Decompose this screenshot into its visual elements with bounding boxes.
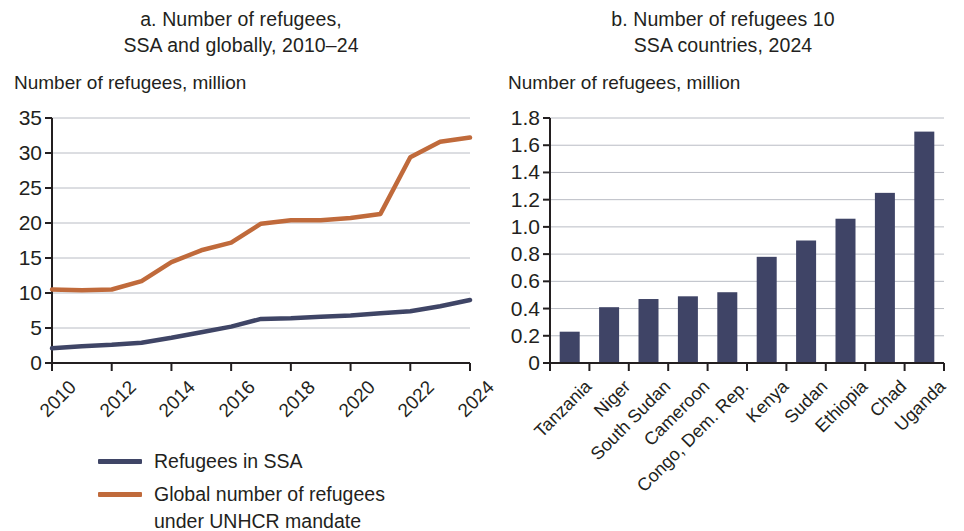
panel-b-y-tick: 0.2	[488, 325, 540, 346]
bar-tanzania	[560, 332, 580, 363]
panel-b-y-tick: 1.0	[488, 216, 540, 237]
legend-item-ssa: Refugees in SSA	[98, 448, 478, 475]
legend-item-global: Global number of refugees under UNHCR ma…	[98, 481, 478, 531]
panel-a-y-tick: 30	[0, 142, 42, 163]
panel-b-title: b. Number of refugees 10 SSA countries, …	[482, 6, 964, 58]
bar-kenya	[757, 257, 777, 363]
panel-b-tickmarks	[543, 118, 550, 363]
panel-b-title-line2: SSA countries, 2024	[482, 32, 964, 58]
legend-label-global-line2: under UNHCR mandate	[154, 508, 385, 531]
panel-a-y-tick: 0	[0, 352, 42, 373]
legend-label-ssa-line1: Refugees in SSA	[154, 450, 303, 472]
panel-b-y-tick: 0	[488, 352, 540, 373]
line-global-refugees	[52, 138, 470, 291]
panel-b-bars	[560, 132, 935, 363]
panel-a-title-line2: SSA and globally, 2010–24	[0, 32, 482, 58]
panel-b-y-tick: 1.6	[488, 134, 540, 155]
panel-b-y-tick: 1.2	[488, 189, 540, 210]
panel-a-y-tick: 20	[0, 212, 42, 233]
legend-label-ssa: Refugees in SSA	[154, 448, 303, 475]
panel-b-plot-area	[550, 118, 944, 363]
panel-a-y-tick: 25	[0, 177, 42, 198]
line-ssa-refugees	[52, 300, 470, 348]
legend-swatch-ssa	[98, 459, 142, 464]
panel-a-y-tick: 10	[0, 282, 42, 303]
panel-b-y-tick: 1.4	[488, 161, 540, 182]
figure-container: a. Number of refugees, SSA and globally,…	[0, 0, 964, 531]
panel-a-tickmarks	[45, 118, 470, 371]
bar-sudan	[796, 241, 816, 364]
bar-cameroon	[678, 296, 698, 363]
panel-b-y-tick: 0.6	[488, 270, 540, 291]
panel-a-y-tick: 5	[0, 317, 42, 338]
panel-b-y-tick: 0.4	[488, 298, 540, 319]
panel-b-y-tick: 0.8	[488, 243, 540, 264]
legend-label-global: Global number of refugees under UNHCR ma…	[154, 481, 385, 531]
panel-b-title-line1: b. Number of refugees 10	[482, 6, 964, 32]
panel-b-y-axis-label: Number of refugees, million	[508, 72, 740, 94]
panel-a-svg	[52, 118, 470, 363]
bar-south-sudan	[639, 299, 659, 363]
panel-b-x-tickmarks	[550, 363, 944, 371]
legend-swatch-global	[98, 492, 142, 497]
panel-b-y-tick: 1.8	[488, 107, 540, 128]
bar-niger	[599, 307, 619, 363]
panel-a-title-line1: a. Number of refugees,	[0, 6, 482, 32]
bar-chad	[875, 193, 895, 363]
legend-label-global-line1: Global number of refugees	[154, 483, 385, 505]
panel-b-bar-chart: b. Number of refugees 10 SSA countries, …	[482, 0, 964, 531]
panel-a-legend: Refugees in SSA Global number of refugee…	[98, 448, 478, 531]
panel-a-title: a. Number of refugees, SSA and globally,…	[0, 6, 482, 58]
panel-b-svg	[550, 118, 944, 363]
panel-a-line-chart: a. Number of refugees, SSA and globally,…	[0, 0, 482, 531]
panel-a-y-tick: 35	[0, 107, 42, 128]
bar-uganda	[914, 132, 934, 363]
bar-congo-dem-rep	[717, 292, 737, 363]
bar-ethiopia	[836, 219, 856, 363]
panel-a-y-axis-label: Number of refugees, million	[14, 72, 246, 94]
panel-a-plot-area	[52, 118, 470, 363]
panel-a-y-tick: 15	[0, 247, 42, 268]
